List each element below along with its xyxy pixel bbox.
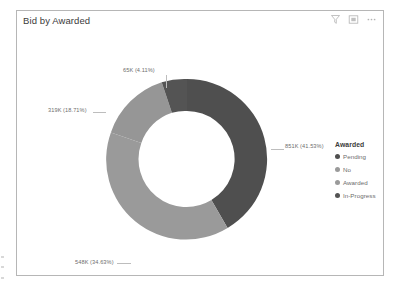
data-label-in-progress: 65K (4.11%)	[123, 67, 155, 73]
legend-item-label: No	[343, 166, 351, 173]
more-options-icon[interactable]	[366, 14, 377, 25]
leader-line-top	[166, 75, 167, 88]
legend-item-in-progress[interactable]: In-Progress	[335, 192, 387, 199]
data-label-pending: 851K (41.53%)	[285, 143, 324, 149]
donut-slice-no[interactable]	[106, 132, 227, 239]
visual-header: Bid by Awarded	[17, 11, 383, 31]
filter-icon[interactable]	[330, 14, 341, 25]
leader-line-left	[93, 112, 106, 113]
visual-header-actions	[330, 14, 377, 25]
data-label-awarded: 319K (18.71%)	[48, 107, 87, 113]
legend-item-label: Pending	[343, 153, 366, 160]
donut-slice-awarded[interactable]	[111, 82, 172, 143]
visual-title: Bid by Awarded	[23, 14, 377, 27]
leader-line-bottom	[117, 263, 131, 264]
legend-swatch-icon	[335, 180, 340, 185]
legend-item-awarded[interactable]: Awarded	[335, 179, 387, 186]
chart-plot-area: 65K (4.11%) 319K (18.71%) 851K (41.53%) …	[17, 31, 383, 275]
legend-item-no[interactable]: No	[335, 166, 387, 173]
donut-chart-visual: Bid by Awarded	[16, 10, 384, 276]
chart-legend: Awarded Pending No Awarded In-Progress	[335, 141, 387, 205]
data-label-no: 548K (34.63%)	[75, 259, 114, 265]
donut-graphic	[99, 71, 275, 247]
leader-line-right	[271, 149, 284, 150]
legend-title: Awarded	[335, 141, 387, 148]
edge-artifacts	[0, 252, 6, 292]
focus-mode-icon[interactable]	[348, 14, 359, 25]
legend-item-label: Awarded	[343, 179, 368, 186]
legend-swatch-icon	[335, 167, 340, 172]
legend-swatch-icon	[335, 154, 340, 159]
legend-swatch-icon	[335, 193, 340, 198]
legend-item-label: In-Progress	[343, 192, 376, 199]
legend-item-pending[interactable]: Pending	[335, 153, 387, 160]
